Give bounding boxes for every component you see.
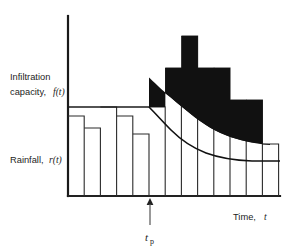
rainfall-excess-body: [149, 36, 270, 145]
ponding-time-subscript: p: [150, 237, 154, 246]
x-axis-label-symbol: t: [264, 211, 267, 222]
rainfall-bar: [100, 107, 116, 196]
rainfall-bar: [262, 144, 278, 196]
ponding-time-label: t: [145, 231, 149, 243]
rainfall-bar: [68, 116, 84, 196]
rainfall-label-text: Rainfall,: [10, 155, 44, 165]
rainfall-bar: [84, 128, 100, 196]
pointer-arrow-icon: [147, 198, 154, 205]
y-axis-label-line2-text: capacity,: [10, 87, 46, 97]
ponding-time-pointer: [147, 198, 154, 225]
rainfall-bar: [133, 134, 149, 196]
y-axis-label-line2: capacity,: [10, 87, 46, 97]
x-axis-label-text: Time,: [233, 212, 256, 222]
infiltration-rainfall-diagram: Infiltration capacity, f(t) Rainfall, r(…: [0, 0, 292, 251]
y-axis-label-line1: Infiltration: [10, 72, 50, 82]
rainfall-label-symbol: r(t): [49, 154, 62, 166]
rainfall-bar: [117, 116, 133, 196]
y-axis-label-symbol: f(t): [53, 86, 65, 98]
